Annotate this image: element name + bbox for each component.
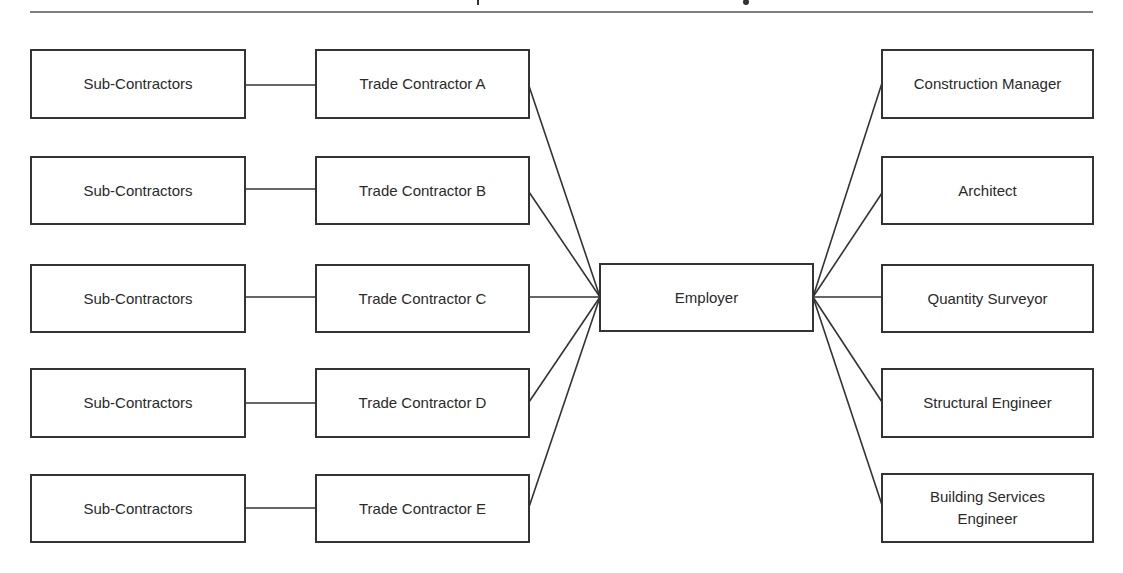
node-label: Employer [675,287,738,309]
node-label: Trade Contractor E [359,498,486,520]
node-construction-manager: Construction Manager [881,49,1094,119]
node-label: Trade Contractor A [359,73,485,95]
node-label: Sub-Contractors [83,73,192,95]
title-fragment [477,0,479,5]
node-label: Trade Contractor C [359,288,487,310]
node-subcontractors-b: Sub-Contractors [30,156,246,225]
edge-tc-d-employer [529,297,600,402]
node-building-services-engineer: Building Services Engineer [881,473,1094,543]
node-label: Sub-Contractors [83,288,192,310]
node-trade-contractor-a: Trade Contractor A [315,49,530,119]
node-employer: Employer [599,263,814,332]
edge-employer-architect [813,193,882,297]
node-label-line-2: Engineer [957,508,1017,530]
node-label: Trade Contractor D [359,392,487,414]
node-label: Quantity Surveyor [927,288,1047,310]
edge-employer-cm [813,83,882,297]
node-architect: Architect [881,156,1094,225]
node-trade-contractor-c: Trade Contractor C [315,264,530,333]
node-subcontractors-c: Sub-Contractors [30,264,246,333]
edge-employer-se [813,297,882,402]
node-subcontractors-a: Sub-Contractors [30,49,246,119]
node-label: Construction Manager [914,73,1062,95]
edge-tc-e-employer [529,297,600,507]
node-quantity-surveyor: Quantity Surveyor [881,264,1094,333]
node-subcontractors-d: Sub-Contractors [30,368,246,438]
edge-tc-b-employer [529,192,600,297]
node-label: Trade Contractor B [359,180,486,202]
edge-employer-bse [813,297,882,505]
node-label: Sub-Contractors [83,498,192,520]
node-label: Structural Engineer [923,392,1051,414]
title-fragment [743,0,749,5]
node-trade-contractor-d: Trade Contractor D [315,368,530,438]
edge-tc-a-employer [529,86,600,297]
node-subcontractors-e: Sub-Contractors [30,474,246,543]
node-trade-contractor-b: Trade Contractor B [315,156,530,225]
node-structural-engineer: Structural Engineer [881,368,1094,438]
node-trade-contractor-e: Trade Contractor E [315,474,530,543]
node-label: Sub-Contractors [83,392,192,414]
node-label: Sub-Contractors [83,180,192,202]
node-label-line-1: Building Services [930,486,1045,508]
node-label: Architect [958,180,1016,202]
